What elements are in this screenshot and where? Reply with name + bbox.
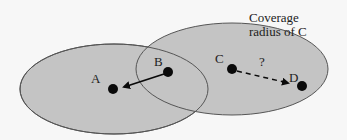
node-d-label: D — [289, 70, 298, 85]
coverage-diagram: Coverage radius of C A B C D ? — [0, 0, 347, 140]
node-a — [108, 84, 118, 94]
node-c-label: C — [215, 51, 224, 66]
coverage-label-line2: radius of C — [249, 24, 307, 39]
node-d — [297, 81, 307, 91]
edge-c-d-question-label: ? — [259, 54, 265, 69]
node-c — [227, 64, 237, 74]
node-b-label: B — [154, 54, 163, 69]
coverage-label-line1: Coverage — [249, 10, 299, 25]
node-b — [163, 67, 173, 77]
node-a-label: A — [91, 71, 101, 86]
